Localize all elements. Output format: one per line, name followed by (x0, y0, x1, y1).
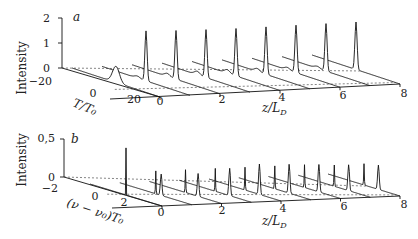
series-curve-z4 (209, 164, 281, 201)
series-curve-z7 (298, 165, 370, 198)
ylabel-b: Intensity (15, 133, 29, 187)
series-curve-z3 (179, 168, 251, 202)
series-curve-z1 (120, 171, 192, 205)
ztick-b-1: 2 (219, 204, 226, 217)
xtick-a-1: 0 (90, 87, 97, 100)
xtick-a-0: −20 (29, 75, 52, 88)
ytick-b-1: 0,5 (38, 132, 56, 145)
panel-label-a: a (73, 10, 80, 24)
xtick-b-1: 0 (92, 190, 99, 203)
panel-b: Intensity b 0 0,5 −2 0 2 (ν − ν₀)T₀ 0 2 … (15, 132, 408, 230)
panel-label-b: b (71, 132, 79, 146)
ytick-a-0: 0 (43, 62, 50, 75)
ytick-a-2: 2 (43, 12, 50, 25)
ztick-b-3: 6 (341, 200, 348, 213)
ztick-a-3: 6 (340, 89, 347, 102)
figure: Intensity a 0 1 2 −20 0 20 T/T₀ 0 2 4 6 … (0, 0, 418, 239)
xtick-a-2: 20 (127, 93, 141, 106)
ztick-b-0: 0 (158, 206, 165, 219)
zlabel-b: z/LD (261, 214, 287, 230)
ytick-a-1: 1 (43, 37, 50, 50)
ztick-b-4: 8 (401, 198, 408, 211)
ylabel-a: Intensity (15, 41, 29, 95)
series-curve-z6 (269, 165, 341, 199)
marks-a (58, 18, 400, 100)
ztick-a-4: 8 (401, 87, 408, 100)
marks-b (60, 139, 400, 209)
grid-dashed-line (107, 194, 396, 195)
panel-a: Intensity a 0 1 2 −20 0 20 T/T₀ 0 2 4 6 … (15, 10, 408, 118)
xtick-b-0: −2 (42, 182, 58, 195)
series-curve-z8 (328, 164, 400, 196)
z-axis-line (112, 196, 400, 208)
